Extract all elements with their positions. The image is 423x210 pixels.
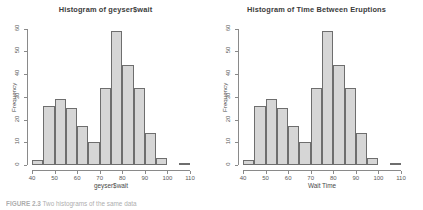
- x-axis-tick: [401, 171, 402, 174]
- chart-title-left: Histogram of geyser$wait: [0, 5, 211, 14]
- x-axis-tick-label: 110: [180, 175, 200, 181]
- histogram-bar: [254, 106, 265, 165]
- histogram-bar: [390, 163, 401, 165]
- y-axis-tick: [235, 142, 238, 143]
- histogram-bar: [311, 88, 322, 165]
- bars-left: [32, 24, 190, 165]
- x-axis-tick: [288, 171, 289, 174]
- x-axis-tick: [55, 171, 56, 174]
- figure-caption-text: Two histograms of the same data: [41, 200, 137, 207]
- y-axis-tick: [24, 29, 27, 30]
- y-axis-tick: [24, 97, 27, 98]
- y-axis-tick: [24, 120, 27, 121]
- histogram-panel-right: Histogram of Time Between Eruptions Wait…: [211, 0, 422, 196]
- x-axis-tick-label: 50: [256, 175, 276, 181]
- x-axis-tick-label: 40: [22, 175, 42, 181]
- y-axis-tick: [235, 97, 238, 98]
- x-axis-tick-label: 40: [233, 175, 253, 181]
- histogram-bar: [179, 163, 190, 165]
- histogram-bar: [277, 108, 288, 165]
- x-axis-tick: [243, 171, 244, 174]
- histogram-panel-left: Histogram of geyser$wait geyser$wait 010…: [0, 0, 211, 196]
- y-axis-tick-label: 60: [14, 21, 20, 35]
- x-axis-tick-label: 100: [157, 175, 177, 181]
- x-axis-tick-label: 60: [67, 175, 87, 181]
- histogram-bar: [156, 158, 167, 165]
- figure-caption: FIGURE 2.3 Two histograms of the same da…: [6, 200, 306, 208]
- x-axis-tick: [311, 171, 312, 174]
- y-axis-tick-label: 0: [14, 157, 20, 171]
- figure-caption-label: FIGURE 2.3: [6, 200, 41, 207]
- x-axis-tick-label: 90: [135, 175, 155, 181]
- plot-area-left: [32, 24, 190, 165]
- x-axis-tick: [122, 171, 123, 174]
- y-axis-tick-label: 60: [225, 21, 231, 35]
- y-axis-tick: [24, 74, 27, 75]
- histogram-bar: [266, 99, 277, 165]
- x-axis-tick-label: 70: [301, 175, 321, 181]
- histogram-bar: [288, 126, 299, 165]
- x-axis-tick-label: 60: [278, 175, 298, 181]
- y-axis-tick: [235, 29, 238, 30]
- histogram-bar: [66, 108, 77, 165]
- y-axis-title: Frequency: [10, 82, 17, 111]
- x-axis-tick-label: 110: [391, 175, 411, 181]
- y-axis-tick: [24, 165, 27, 166]
- x-axis-title-left: geyser$wait: [32, 182, 190, 189]
- y-axis-tick-label: 40: [225, 66, 231, 80]
- histogram-bar: [55, 99, 66, 165]
- y-axis-tick: [24, 142, 27, 143]
- y-axis-tick: [235, 51, 238, 52]
- x-axis-tick-label: 100: [368, 175, 388, 181]
- y-axis-tick-label: 40: [14, 66, 20, 80]
- histogram-bar: [77, 126, 88, 165]
- x-axis-tick: [266, 171, 267, 174]
- x-axis-tick: [145, 171, 146, 174]
- y-axis-tick-label: 20: [225, 112, 231, 126]
- histogram-bar: [356, 133, 367, 165]
- histogram-bar: [367, 158, 378, 165]
- y-axis-line: [27, 29, 28, 165]
- histogram-bar: [122, 65, 133, 165]
- y-axis-tick-label: 50: [225, 43, 231, 57]
- histogram-bar: [32, 160, 43, 165]
- histogram-bar: [243, 160, 254, 165]
- x-axis-tick-label: 80: [112, 175, 132, 181]
- histogram-bar: [88, 142, 99, 165]
- x-axis-tick: [77, 171, 78, 174]
- y-axis-tick: [235, 165, 238, 166]
- y-axis-tick: [235, 120, 238, 121]
- y-axis-tick: [235, 74, 238, 75]
- x-axis-tick: [333, 171, 334, 174]
- x-axis-tick: [100, 171, 101, 174]
- x-axis-tick-label: 50: [45, 175, 65, 181]
- bars-right: [243, 24, 401, 165]
- x-axis-tick-label: 80: [323, 175, 343, 181]
- x-axis-line: [32, 170, 190, 171]
- y-axis-line: [238, 29, 239, 165]
- histogram-bar: [322, 31, 333, 165]
- histogram-bar: [145, 133, 156, 165]
- y-axis-tick-label: 20: [14, 112, 20, 126]
- chart-title-right: Histogram of Time Between Eruptions: [211, 5, 422, 14]
- histogram-bar: [43, 106, 54, 165]
- histogram-bar: [299, 142, 310, 165]
- histogram-bar: [333, 65, 344, 165]
- histogram-bar: [111, 31, 122, 165]
- y-axis-tick-label: 50: [14, 43, 20, 57]
- histogram-bar: [100, 88, 111, 165]
- x-axis-tick: [190, 171, 191, 174]
- y-axis-tick: [24, 51, 27, 52]
- y-axis-tick-label: 0: [225, 157, 231, 171]
- y-axis-tick-label: 10: [14, 134, 20, 148]
- x-axis-line: [243, 170, 401, 171]
- y-axis-title: Frequency: [221, 82, 228, 111]
- histogram-bar: [345, 88, 356, 165]
- x-axis-tick: [32, 171, 33, 174]
- x-axis-tick-label: 90: [346, 175, 366, 181]
- x-axis-tick: [378, 171, 379, 174]
- x-axis-title-right: Wait Time: [243, 182, 401, 189]
- figure-container: Histogram of geyser$wait geyser$wait 010…: [0, 0, 423, 210]
- x-axis-tick: [356, 171, 357, 174]
- x-axis-tick: [167, 171, 168, 174]
